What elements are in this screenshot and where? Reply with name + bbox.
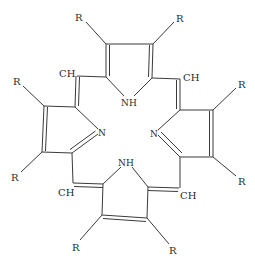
- top-pyrrole-ring: [86, 22, 174, 96]
- meso-ch-bottom-right: [148, 157, 180, 192]
- nh-label-top: NH: [121, 98, 137, 108]
- r-label-left-upper: R: [13, 76, 21, 87]
- n-label-right: N: [150, 129, 158, 139]
- meso-ch-top-right: [152, 78, 180, 110]
- ch-label-bottom-left: CH: [58, 187, 75, 198]
- r-label-left-lower: R: [11, 172, 19, 183]
- r-label-bottom-right: R: [169, 245, 177, 256]
- r-label-top-left: R: [75, 12, 83, 23]
- r-label-right-upper: R: [238, 79, 246, 90]
- n-label-left: N: [98, 128, 106, 138]
- r-label-top-right: R: [176, 13, 184, 24]
- nh-label-bottom: NH: [118, 158, 134, 168]
- ch-label-top-right: CH: [183, 72, 200, 83]
- bottom-pyrrole-ring: [80, 167, 169, 244]
- right-pyrrole-ring: [158, 88, 236, 176]
- left-pyrrole-ring: [21, 86, 98, 172]
- ch-label-top-left: CH: [59, 68, 76, 79]
- meso-ch-top-left: [75, 76, 106, 107]
- r-label-right-lower: R: [238, 176, 246, 187]
- ch-label-bottom-right: CH: [180, 190, 197, 201]
- meso-ch-bottom-left: [72, 153, 103, 188]
- porphyrin-diagram: R R R R R R R R CH CH CH CH NH NH N N: [0, 0, 255, 259]
- r-label-bottom-left: R: [72, 242, 80, 253]
